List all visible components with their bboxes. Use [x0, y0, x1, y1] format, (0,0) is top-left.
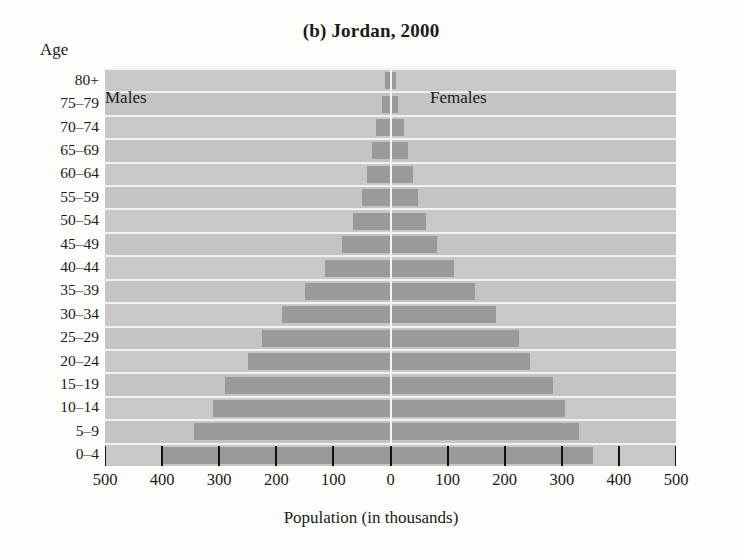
plot-area: [105, 68, 676, 466]
bar-males: [325, 260, 391, 277]
x-axis-tick-labels: 5004003002001000100200300400500: [0, 470, 742, 498]
x-axis-title: Population (in thousands): [0, 508, 742, 528]
x-axis-tick-label: 100: [303, 470, 363, 490]
x-axis-tick: [218, 446, 220, 466]
bar-males: [213, 400, 390, 417]
x-axis-tick-label: 500: [646, 470, 706, 490]
x-axis-tick-label: 400: [589, 470, 649, 490]
y-axis-tick-label: 0–4: [33, 446, 99, 461]
x-axis-tick: [675, 446, 676, 466]
y-axis-tick-label: 15–19: [33, 376, 99, 391]
bar-females: [391, 119, 405, 136]
y-axis-tick-label: 35–39: [33, 282, 99, 297]
bar-females: [391, 400, 565, 417]
center-axis-line: [390, 68, 392, 466]
bar-males: [262, 330, 390, 347]
bar-males: [225, 377, 391, 394]
bar-females: [391, 213, 426, 230]
bar-females: [391, 166, 414, 183]
bar-males: [353, 213, 390, 230]
x-axis-tick-label: 200: [475, 470, 535, 490]
x-axis-tick-label: 300: [532, 470, 592, 490]
y-axis-tick-label: 50–54: [33, 212, 99, 227]
page-title: (b) Jordan, 2000: [0, 20, 742, 42]
bar-males: [376, 119, 390, 136]
bar-males: [372, 142, 391, 159]
x-axis-tick-label: 0: [361, 470, 421, 490]
bar-females: [391, 283, 476, 300]
y-axis-tick-label: 70–74: [33, 119, 99, 134]
x-axis-tick: [390, 446, 392, 466]
x-axis-tick: [332, 446, 334, 466]
bar-females: [391, 423, 579, 440]
x-axis-tick: [504, 446, 506, 466]
x-axis-tick-label: 300: [189, 470, 249, 490]
series-label-males: Males: [105, 88, 147, 108]
bar-females: [391, 377, 554, 394]
bar-females: [391, 142, 409, 159]
x-axis-tick: [161, 446, 163, 466]
x-axis-tick-label: 100: [418, 470, 478, 490]
bar-females: [391, 330, 519, 347]
y-axis-tick-labels: 80+75–7970–7465–6960–6455–5950–5445–4940…: [33, 68, 99, 466]
bar-females: [391, 236, 438, 253]
bar-females: [391, 260, 455, 277]
bar-males: [367, 166, 391, 183]
series-label-females: Females: [430, 88, 487, 108]
y-axis-title: Age: [40, 40, 68, 60]
y-axis-tick-label: 75–79: [33, 95, 99, 110]
bar-females: [391, 447, 594, 464]
bar-females: [391, 353, 531, 370]
bar-females: [391, 189, 418, 206]
bar-females: [391, 96, 399, 113]
y-axis-tick-label: 55–59: [33, 189, 99, 204]
y-axis-tick-label: 25–29: [33, 329, 99, 344]
x-axis-tick-label: 200: [246, 470, 306, 490]
x-axis-tick: [561, 446, 563, 466]
x-axis-tick: [618, 446, 620, 466]
x-axis-tick-label: 500: [75, 470, 135, 490]
x-axis-tick-label: 400: [132, 470, 192, 490]
bar-males: [194, 423, 391, 440]
bar-females: [391, 306, 497, 323]
y-axis-tick-label: 80+: [33, 72, 99, 87]
y-axis-tick-label: 5–9: [33, 423, 99, 438]
population-pyramid-figure: (b) Jordan, 2000 Age 80+75–7970–7465–696…: [0, 0, 742, 554]
y-axis-tick-label: 40–44: [33, 259, 99, 274]
y-axis-tick-label: 65–69: [33, 142, 99, 157]
y-axis-tick-label: 60–64: [33, 165, 99, 180]
x-axis-tick: [447, 446, 449, 466]
y-axis-tick-label: 45–49: [33, 236, 99, 251]
bar-males: [282, 306, 390, 323]
y-axis-tick-label: 10–14: [33, 399, 99, 414]
y-axis-tick-label: 30–34: [33, 306, 99, 321]
bar-males: [305, 283, 391, 300]
x-axis-tick: [105, 446, 106, 466]
bar-males: [248, 353, 391, 370]
y-axis-tick-label: 20–24: [33, 353, 99, 368]
x-axis-tick: [275, 446, 277, 466]
bar-males: [362, 189, 391, 206]
bar-males: [342, 236, 391, 253]
